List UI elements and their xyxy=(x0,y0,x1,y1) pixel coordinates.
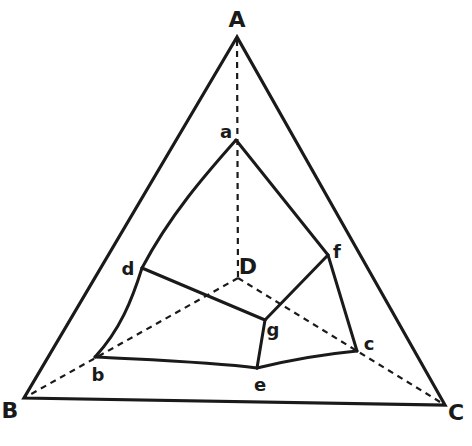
vertex-label-D: D xyxy=(239,254,257,279)
vertex-label-A: A xyxy=(228,7,245,32)
vertex-label-a: a xyxy=(220,121,232,142)
edge-d-b xyxy=(95,268,142,357)
edge-f-g xyxy=(265,255,328,320)
inner-figure xyxy=(95,140,357,368)
vertex-label-b: b xyxy=(92,364,105,385)
outer-triangle-ABC xyxy=(24,37,445,405)
outer-labels: A B C D xyxy=(2,7,464,425)
edge-g-e xyxy=(257,320,265,368)
edge-b-e xyxy=(95,357,257,368)
vertex-label-g: g xyxy=(267,319,280,340)
edge-e-c xyxy=(257,351,357,368)
vertex-label-e: e xyxy=(254,374,266,395)
vertex-label-C: C xyxy=(448,400,464,425)
tetrahedron-diagram: A B C D a b c d e f g xyxy=(0,0,472,446)
edge-A-D xyxy=(237,40,238,278)
vertex-label-f: f xyxy=(333,241,341,262)
vertex-label-B: B xyxy=(2,398,19,423)
hidden-edges xyxy=(24,40,445,405)
edge-a-d xyxy=(142,140,236,268)
vertex-label-c: c xyxy=(364,333,375,354)
vertex-label-d: d xyxy=(122,258,135,279)
edge-a-f xyxy=(236,140,328,255)
